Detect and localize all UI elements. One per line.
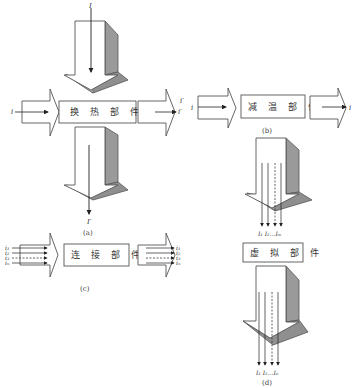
label-inputs-d: I₁ I₂…Iₘ	[257, 230, 282, 237]
label-input-top: I	[88, 2, 92, 10]
label-input-left-prime: i′	[180, 97, 184, 105]
upper-3d-multi-arrow	[245, 138, 312, 226]
label-input-left: i	[11, 108, 13, 116]
top-3d-arrow	[64, 8, 128, 93]
lower-3d-multi-arrow	[243, 266, 308, 365]
label-outputs-d: I₁ I₂…Iₙ	[255, 369, 279, 376]
label-output-n: iₙ	[176, 259, 181, 266]
label-output-right: i′	[178, 108, 182, 116]
bottom-3d-arrow	[64, 127, 128, 214]
label-output-right-b: i	[349, 104, 351, 112]
left-input-arrow-b	[198, 88, 236, 128]
virtual-component-label: 虚 拟 部 件	[250, 247, 323, 258]
caption-a: (a)	[83, 229, 93, 237]
connection-component-label: 连 接 部 件	[71, 249, 144, 260]
caption-d: (d)	[262, 379, 272, 387]
left-multi-input-arrow	[12, 233, 58, 277]
label-output-bottom: I′	[86, 218, 92, 226]
caption-c: (c)	[80, 285, 90, 293]
label-input-n: iₙ	[5, 259, 10, 266]
right-output-arrow	[138, 89, 176, 136]
panel-d: I₁ I₂…Iₘ 虚 拟 部 件 I₁ I₂…Iₙ (d)	[243, 138, 323, 387]
panel-b: i′ i 减 温 部 件 i (b)	[180, 88, 351, 135]
caption-b: (b)	[262, 127, 272, 135]
left-input-arrow	[15, 89, 59, 136]
panel-c: i₁ i₂ i₃ iₙ 连 接 部 件 i₁ i₂ i₃ iₙ (c)	[5, 233, 181, 293]
diagram-canvas: I i 换 热 部 件 i′ I′ (a)	[0, 0, 359, 388]
right-output-arrow-b	[310, 88, 346, 128]
panel-a: I i 换 热 部 件 i′ I′ (a)	[11, 2, 182, 237]
heat-exchange-component-label: 换 热 部 件	[70, 106, 143, 117]
right-multi-output-arrow	[138, 233, 175, 277]
label-input-left-b: i	[191, 104, 193, 112]
